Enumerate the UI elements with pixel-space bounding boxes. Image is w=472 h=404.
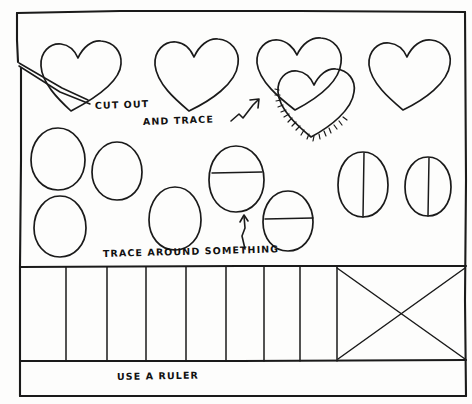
heart-shadow-hatching [275, 89, 347, 141]
frame-left-edge-upper [17, 13, 18, 62]
ruler-cell-dividers [66, 267, 337, 361]
egg-divider-horizontal-2 [265, 218, 313, 219]
scissors-cut-line [19, 66, 90, 104]
frame-left-edge-lower [20, 68, 21, 396]
egg-divider-horizontal-1 [212, 172, 262, 173]
ruler-band-bottom [20, 360, 466, 361]
label-cut-out: CUT OUT [95, 98, 150, 111]
egg-rows [31, 128, 451, 257]
egg-shape-6 [263, 191, 313, 251]
ruler-band [20, 266, 466, 361]
heart-row [41, 38, 450, 141]
egg-shape-1 [31, 128, 85, 190]
egg-divider-vertical-1 [363, 153, 364, 217]
label-trace-around-something: TRACE AROUND SOMETHING [103, 243, 280, 259]
egg-shape-5 [209, 146, 264, 212]
trace-arrow-shaft [231, 100, 258, 121]
heart-shape-3-back [257, 38, 341, 110]
egg-divider-vertical-2 [428, 158, 429, 216]
ruler-band-top [20, 266, 466, 267]
heart-shape-2 [155, 39, 238, 111]
sheet-frame [17, 11, 466, 396]
cut-line-mark [19, 63, 90, 104]
heart-shape-4 [369, 40, 450, 110]
label-use-a-ruler: USE A RULER [117, 370, 199, 382]
egg-shape-3 [92, 142, 142, 200]
egg-shape-4 [149, 187, 201, 250]
trace-arrow [231, 99, 259, 121]
frame-top-edge [17, 11, 465, 13]
heart-shape-3-front [278, 69, 354, 137]
scissors-cut-line-second [19, 63, 88, 100]
x-box [337, 268, 465, 359]
label-and-trace: AND TRACE [143, 114, 214, 127]
egg-shape-2 [34, 196, 86, 257]
frame-right-edge [465, 12, 466, 396]
worksheet-canvas: CUT OUT AND TRACE [0, 0, 472, 404]
